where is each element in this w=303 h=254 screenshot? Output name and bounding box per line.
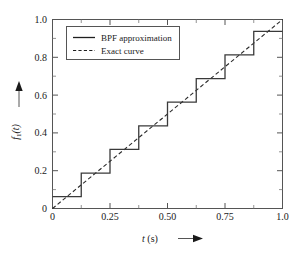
y-tick-label-5: 1.0 (35, 14, 48, 25)
y-tick-label-4: 0.8 (35, 52, 48, 63)
x-axis-title-unit: (s) (147, 233, 158, 245)
chart-canvas: 0 0.25 0.50 0.75 1.0 0 0.2 0.4 0.6 0.8 1… (0, 0, 303, 254)
y-tick-labels: 0 0.2 0.4 0.6 0.8 1.0 (35, 14, 48, 214)
x-axis-arrow-icon (193, 235, 203, 242)
x-tick-label-3: 0.75 (216, 211, 234, 222)
x-tick-labels: 0 0.25 0.50 0.75 1.0 (50, 211, 289, 222)
y-axis-title-group: f1(t) (10, 81, 23, 140)
legend-label-bpf-approximation: BPF approximation (101, 33, 172, 43)
x-axis-title-group: t(s) (142, 233, 203, 245)
y-axis-title-arg: (t) (10, 123, 22, 133)
x-tick-label-0: 0 (50, 211, 55, 222)
x-axis-title-symbol: t (142, 233, 145, 244)
y-tick-label-3: 0.6 (35, 90, 48, 101)
legend-label-exact-curve: Exact curve (101, 46, 144, 56)
x-tick-label-1: 0.25 (101, 211, 119, 222)
y-tick-label-2: 0.4 (35, 127, 48, 138)
x-axis-title: t(s) (142, 233, 158, 245)
x-tick-label-2: 0.50 (159, 211, 177, 222)
chart-legend: BPF approximation Exact curve (67, 27, 180, 60)
y-tick-label-1: 0.2 (35, 165, 48, 176)
x-tick-label-4: 1.0 (276, 211, 289, 222)
y-axis-arrow-icon (15, 81, 22, 91)
y-tick-label-0: 0 (42, 203, 47, 214)
y-axis-title: f1(t) (10, 123, 23, 139)
chart-figure: 0 0.25 0.50 0.75 1.0 0 0.2 0.4 0.6 0.8 1… (0, 0, 303, 254)
